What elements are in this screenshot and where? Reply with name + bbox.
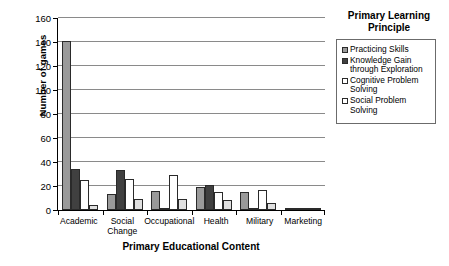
x-axis-label: Military xyxy=(238,213,282,243)
bar-group xyxy=(103,18,148,210)
y-tick-mark xyxy=(53,138,58,139)
x-axis-label: Marketing xyxy=(281,213,325,243)
y-tick-mark xyxy=(53,66,58,67)
legend-item: Knowledge Gain through Exploration xyxy=(342,56,431,75)
bar xyxy=(151,191,160,210)
bar xyxy=(80,180,89,210)
y-tick-label: 60 xyxy=(40,133,51,144)
x-axis-label: Academic xyxy=(57,213,101,243)
bar xyxy=(71,169,80,210)
y-tick-label: 140 xyxy=(35,37,51,48)
bar xyxy=(240,192,249,210)
bar xyxy=(285,208,294,210)
y-tick-label: 40 xyxy=(40,157,51,168)
bar-group xyxy=(58,18,103,210)
bar xyxy=(134,199,143,210)
bar-groups xyxy=(58,18,325,210)
x-axis-label: Social Change xyxy=(101,213,145,243)
bar xyxy=(125,179,134,210)
bar xyxy=(107,194,116,210)
y-tick-label: 160 xyxy=(35,13,51,24)
y-tick-mark xyxy=(53,186,58,187)
bar xyxy=(267,203,276,210)
bar xyxy=(223,200,232,210)
legend-title: Primary Learning Principle xyxy=(336,10,442,34)
legend-box: Practicing SkillsKnowledge Gain through … xyxy=(336,39,436,124)
legend-swatch-icon xyxy=(342,78,348,84)
bar xyxy=(303,208,312,210)
y-tick-mark xyxy=(53,114,58,115)
y-tick-label: 100 xyxy=(35,85,51,96)
legend-swatch-icon xyxy=(342,47,348,53)
x-axis-category-labels: AcademicSocial ChangeOccupationalHealthM… xyxy=(57,213,325,243)
bar xyxy=(312,208,321,210)
legend-item-label: Practicing Skills xyxy=(350,45,409,55)
bar-group xyxy=(192,18,237,210)
legend-item: Practicing Skills xyxy=(342,45,431,55)
y-tick-mark xyxy=(53,90,58,91)
y-tick-label: 120 xyxy=(35,61,51,72)
bar xyxy=(169,175,178,210)
bar-group xyxy=(236,18,281,210)
bar xyxy=(116,170,125,210)
bar xyxy=(178,199,187,210)
bar xyxy=(258,190,267,211)
y-tick-mark xyxy=(53,162,58,163)
bar xyxy=(294,208,303,210)
legend-item-label: Cognitive Problem Solving xyxy=(350,76,431,95)
bar-chart: Number of games 020406080100120140160 Ac… xyxy=(0,0,449,266)
x-axis-label: Occupational xyxy=(144,213,194,243)
y-tick-label: 0 xyxy=(46,205,51,216)
legend-title-line2: Principle xyxy=(336,22,442,34)
legend-item: Social Problem Solving xyxy=(342,96,431,115)
bar xyxy=(249,208,258,210)
y-tick-mark xyxy=(53,42,58,43)
bar-group xyxy=(281,18,326,210)
bar xyxy=(160,208,169,210)
x-axis-title: Primary Educational Content xyxy=(57,241,325,252)
legend: Primary Learning Principle Practicing Sk… xyxy=(336,10,442,124)
legend-item: Cognitive Problem Solving xyxy=(342,76,431,95)
legend-swatch-icon xyxy=(342,98,348,104)
bar xyxy=(205,185,214,210)
y-tick-mark xyxy=(53,210,58,211)
legend-swatch-icon xyxy=(342,58,348,64)
y-tick-mark xyxy=(53,18,58,19)
bar xyxy=(214,192,223,210)
legend-item-label: Knowledge Gain through Exploration xyxy=(350,56,431,75)
bar xyxy=(62,41,71,210)
bar xyxy=(89,205,98,210)
legend-title-line1: Primary Learning xyxy=(336,10,442,22)
x-axis-label: Health xyxy=(194,213,238,243)
bar-group xyxy=(147,18,192,210)
bar xyxy=(196,187,205,210)
legend-item-label: Social Problem Solving xyxy=(350,96,431,115)
plot-area: 020406080100120140160 xyxy=(57,18,325,211)
y-tick-label: 20 xyxy=(40,181,51,192)
y-tick-label: 80 xyxy=(40,109,51,120)
